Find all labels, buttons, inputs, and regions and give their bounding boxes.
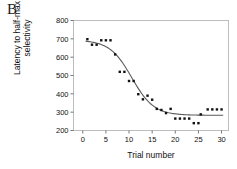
data-point <box>132 80 134 82</box>
y-tick-label: 500 <box>56 71 69 80</box>
x-tick-label: 0 <box>81 135 85 144</box>
scatter-plot: 200300400500600700800 051015202530 <box>0 0 237 169</box>
x-tick-label: 15 <box>148 135 156 144</box>
x-axis-ticks: 051015202530 <box>81 131 226 145</box>
data-point <box>188 117 190 119</box>
x-tick-label: 30 <box>217 135 225 144</box>
data-point <box>179 117 181 119</box>
data-point <box>156 108 158 110</box>
x-tick-label: 5 <box>104 135 108 144</box>
data-point <box>119 71 121 73</box>
data-point <box>165 112 167 114</box>
data-point <box>91 44 93 46</box>
data-point <box>206 108 208 110</box>
data-point <box>128 80 130 82</box>
data-point <box>123 71 125 73</box>
data-point <box>211 108 213 110</box>
y-tick-label: 600 <box>56 53 69 62</box>
data-point <box>160 109 162 111</box>
y-tick-label: 300 <box>56 108 69 117</box>
data-point <box>216 108 218 110</box>
data-point <box>193 122 195 124</box>
data-point <box>114 53 116 55</box>
data-point <box>200 113 202 115</box>
data-point-group <box>86 38 223 124</box>
data-point <box>109 39 111 41</box>
data-point <box>100 39 102 41</box>
data-point <box>174 117 176 119</box>
data-point <box>105 39 107 41</box>
data-point <box>95 44 97 46</box>
data-point <box>197 122 199 124</box>
data-point <box>142 98 144 100</box>
plot-frame <box>74 21 229 131</box>
data-point <box>169 108 171 110</box>
data-point <box>183 117 185 119</box>
y-tick-label: 800 <box>56 16 69 25</box>
data-point <box>151 99 153 101</box>
sigmoid-fit-curve <box>86 41 224 115</box>
y-axis-ticks: 200300400500600700800 <box>56 16 74 135</box>
data-point <box>86 38 88 40</box>
y-tick-label: 700 <box>56 35 69 44</box>
y-tick-label: 400 <box>56 90 69 99</box>
data-point <box>220 108 222 110</box>
y-tick-label: 200 <box>56 126 69 135</box>
data-point <box>146 94 148 96</box>
x-tick-label: 20 <box>171 135 179 144</box>
x-tick-label: 25 <box>194 135 202 144</box>
data-point <box>137 93 139 95</box>
figure-panel-b: B Latency to half-max selectivity Trial … <box>0 0 237 169</box>
x-tick-label: 10 <box>125 135 133 144</box>
